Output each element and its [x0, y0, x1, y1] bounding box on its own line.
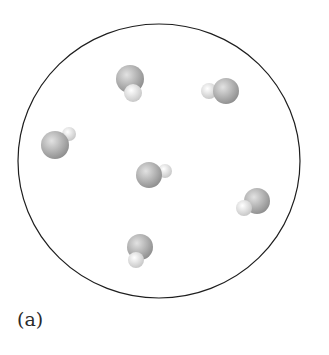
oxygen-atom [41, 131, 69, 159]
hydrogen-atom [236, 200, 252, 216]
molecule-4 [136, 162, 172, 188]
molecule-diagram [0, 0, 329, 355]
hydrogen-atom [124, 84, 142, 102]
molecule-1 [116, 65, 144, 102]
container-circle [18, 24, 300, 298]
molecule-5 [236, 188, 270, 216]
molecule-3 [41, 127, 76, 159]
figure-label: (a) [17, 308, 43, 330]
molecule-2 [201, 78, 239, 104]
oxygen-atom [213, 78, 239, 104]
molecule-6 [127, 234, 153, 268]
oxygen-atom [136, 162, 162, 188]
hydrogen-atom [128, 252, 144, 268]
molecules-group [41, 65, 270, 268]
